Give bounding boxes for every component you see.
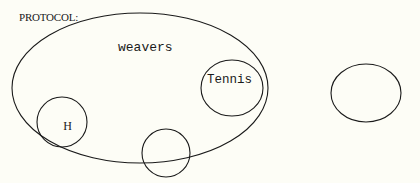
weavers-set-ellipse — [12, 13, 268, 163]
protocol-label: PROTOCOL: — [19, 11, 78, 23]
bottom-set-ellipse — [142, 129, 190, 177]
h-set-ellipse — [37, 97, 87, 147]
tennis-label: Tennis — [207, 73, 252, 87]
tennis-set-ellipse — [201, 60, 263, 116]
weavers-label: weavers — [118, 40, 173, 55]
venn-diagram — [0, 0, 420, 183]
right-set-ellipse — [331, 64, 401, 122]
h-label: H — [63, 119, 72, 134]
